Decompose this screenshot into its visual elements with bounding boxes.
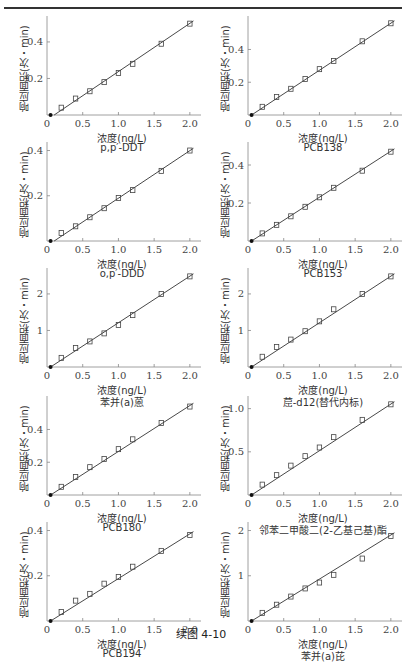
chart-panel: 00.51.01.52.00.20.4响应面积(次・min)浓度(ng/L)PC…	[201, 138, 402, 264]
x-tick-label: 0	[44, 118, 50, 129]
x-tick-label: 2.0	[383, 498, 399, 509]
x-tick-label: 0	[44, 370, 50, 381]
origin-point	[49, 493, 53, 497]
y-tick-label: 2	[238, 288, 244, 299]
y-axis-label: 响应面积(次・min)	[218, 274, 233, 367]
origin-point	[250, 239, 254, 243]
fit-line	[51, 274, 194, 367]
x-tick-label: 1.5	[146, 244, 162, 255]
y-tick-label: 1	[238, 570, 244, 581]
fit-line	[252, 533, 395, 621]
x-tick-label: 2.0	[383, 370, 399, 381]
chart-panel: 00.51.01.52.012响应面积(次・min)浓度(ng/L)䓛-d12(…	[201, 264, 402, 390]
x-tick-label: 0.5	[276, 370, 292, 381]
chart-panel: 00.51.01.52.00.51.0响应面积(次・min)浓度(ng/L)邻苯…	[201, 392, 402, 518]
y-axis-label: 响应面积(次・min)	[17, 528, 32, 621]
y-axis-label: 响应面积(次・min)	[17, 402, 32, 495]
x-tick-label: 1.0	[311, 118, 327, 129]
data-point-marker	[332, 435, 336, 440]
fit-line	[51, 532, 194, 621]
fit-line	[252, 402, 395, 495]
origin-point	[250, 113, 254, 117]
x-tick-label: 1.0	[311, 498, 327, 509]
y-axis-label: 响应面积(次・min)	[218, 148, 233, 241]
x-tick-label: 1.0	[110, 498, 126, 509]
x-tick-label: 1.0	[110, 118, 126, 129]
x-tick-label: 0.5	[75, 118, 91, 129]
origin-point	[49, 113, 53, 117]
origin-point	[49, 239, 53, 243]
x-tick-label: 0	[245, 498, 251, 509]
y-tick-label: 2	[37, 288, 43, 299]
chart-panel: 00.51.01.52.00.20.4响应面积(次・min)浓度(ng/L)o,…	[0, 138, 201, 264]
x-tick-label: 2.0	[383, 118, 399, 129]
x-tick-label: 2.0	[182, 244, 198, 255]
header-rule	[4, 7, 402, 9]
x-tick-label: 1.0	[110, 244, 126, 255]
x-tick-label: 0.5	[75, 244, 91, 255]
x-tick-label: 2.0	[182, 370, 198, 381]
x-tick-label: 0.5	[276, 244, 292, 255]
x-tick-label: 1.5	[146, 118, 162, 129]
data-point-marker	[102, 581, 106, 586]
y-axis-label: 响应面积(次・min)	[218, 402, 233, 495]
y-axis-label: 响应面积(次・min)	[17, 22, 32, 115]
figure-caption: 续图 4-10	[0, 625, 402, 641]
y-axis-label: 响应面积(次・min)	[218, 22, 233, 115]
x-tick-label: 2.0	[182, 118, 198, 129]
chart-panel: 00.51.01.52.00.20.4响应面积(次・min)浓度(ng/L)p,…	[0, 12, 201, 138]
x-tick-label: 1.0	[311, 370, 327, 381]
data-point-marker	[360, 556, 364, 561]
x-tick-label: 2.0	[182, 498, 198, 509]
x-tick-label: 0.5	[276, 118, 292, 129]
origin-point	[250, 493, 254, 497]
data-point-marker	[332, 572, 336, 577]
x-tick-label: 0	[44, 498, 50, 509]
x-tick-label: 0	[44, 244, 50, 255]
y-axis-label: 响应面积(次・min)	[17, 274, 32, 367]
x-tick-label: 0	[245, 118, 251, 129]
data-point-marker	[317, 580, 321, 585]
x-tick-label: 1.0	[311, 244, 327, 255]
x-tick-label: 1.5	[347, 498, 363, 509]
x-tick-label: 1.0	[110, 370, 126, 381]
x-tick-label: 1.5	[146, 370, 162, 381]
x-tick-label: 1.5	[347, 370, 363, 381]
data-point-marker	[274, 473, 278, 478]
origin-point	[49, 619, 53, 623]
x-tick-label: 1.5	[347, 118, 363, 129]
chart-title: 苯并(a)芘	[248, 648, 398, 663]
x-tick-label: 1.5	[347, 244, 363, 255]
x-tick-label: 0	[245, 244, 251, 255]
x-tick-label: 2.0	[383, 244, 399, 255]
chart-title: PCB194	[47, 648, 197, 659]
y-tick-label: 1	[37, 325, 43, 336]
chart-panel: 00.51.01.52.00.20.4响应面积(次・min)浓度(ng/L)PC…	[201, 12, 402, 138]
x-tick-label: 0.5	[276, 498, 292, 509]
data-point-marker	[332, 307, 336, 312]
fit-line	[51, 403, 194, 495]
chart-panel: 00.51.01.52.00.20.4响应面积(次・min)浓度(ng/L)PC…	[0, 392, 201, 518]
origin-point	[250, 619, 254, 623]
x-tick-label: 0.5	[75, 498, 91, 509]
data-point-marker	[274, 344, 278, 349]
x-tick-label: 0	[245, 370, 251, 381]
origin-point	[49, 365, 53, 369]
data-point-marker	[73, 598, 77, 603]
data-point-marker	[260, 482, 264, 487]
x-tick-label: 0.5	[75, 370, 91, 381]
y-axis-label: 响应面积(次・min)	[218, 528, 233, 621]
fit-line	[252, 21, 395, 115]
fit-line	[252, 274, 395, 367]
data-point-marker	[303, 454, 307, 459]
x-tick-label: 1.5	[146, 498, 162, 509]
y-axis-label: 响应面积(次・min)	[17, 148, 32, 241]
y-tick-label: 2	[238, 525, 244, 536]
fit-line	[54, 148, 193, 241]
origin-point	[250, 365, 254, 369]
chart-panel: 00.51.01.52.012响应面积(次・min)浓度(ng/L)苯并(a)蒽	[0, 264, 201, 390]
fit-line	[252, 149, 395, 241]
data-point-marker	[289, 463, 293, 468]
y-tick-label: 1	[238, 325, 244, 336]
